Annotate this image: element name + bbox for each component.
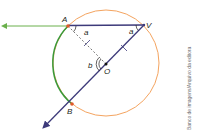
point-B: [70, 102, 74, 106]
image-credit: Banco de imagens/Arquivo da editora: [186, 47, 192, 130]
label-A: A: [61, 15, 67, 24]
angle-arc-V: [136, 25, 138, 31]
point-V: [143, 24, 145, 26]
label-O: O: [104, 67, 110, 76]
angle-arc-A: [74, 26, 76, 32]
point-A: [66, 24, 70, 28]
point-O: [105, 63, 108, 66]
label-angle-a-at-A: a: [84, 28, 89, 37]
chord-AV: [68, 25, 144, 26]
tick-AO: [84, 40, 90, 46]
label-V: V: [146, 21, 152, 30]
label-angle-b-at-O: b: [88, 61, 93, 70]
angle-arc-O-1: [99, 59, 101, 69]
geometry-diagram: A V O B a a b: [0, 0, 204, 138]
label-angle-a-at-V: a: [129, 27, 134, 36]
label-B: B: [67, 107, 73, 116]
